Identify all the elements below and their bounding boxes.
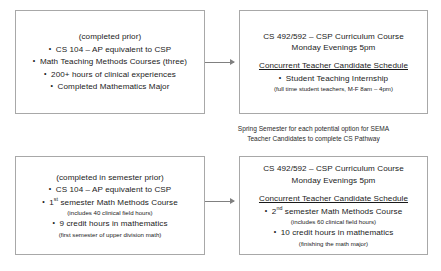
option-1-prerequisite-lines: (completed prior) CS 104 – AP equivalent…: [16, 31, 204, 92]
option-2-course-title: CS 492/592 – CSP Curriculum Course: [263, 163, 404, 174]
pathway-flow-diagram: (completed prior) CS 104 – AP equivalent…: [0, 0, 441, 271]
option-2-schedule-item-1-note: (includes 60 clinical field hours): [291, 217, 376, 226]
option-1-schedule-heading: Concurrent Teacher Candidate Schedule: [259, 60, 408, 71]
option-2-prerequisite-heading: (completed in semester prior): [56, 172, 164, 183]
option-1-prerequisite-item-4: Completed Mathematics Major: [51, 80, 170, 92]
option-2-schedule-heading: Concurrent Teacher Candidate Schedule: [259, 193, 408, 204]
option-2-schedule-item-2-note: (finishing the math major): [299, 239, 368, 248]
option-2-prerequisite-item-3: 9 credit hours in mathematics: [52, 217, 167, 229]
option-2-schedule-item-2: 10 credit hours in mathematics: [274, 226, 394, 238]
option-1-schedule-note: (full time student teachers, M-F 8am – 4…: [274, 84, 393, 93]
option-1-flow-arrow-icon: [205, 62, 234, 63]
option-2-flow-arrow-icon: [205, 201, 234, 202]
option-1-prerequisite-item-1: CS 104 – AP equivalent to CSP: [49, 43, 172, 55]
option-2-prerequisite-box: (completed in semester prior) CS 104 – A…: [15, 156, 205, 255]
option-2-semester-lines: CS 492/592 – CSP Curriculum Course Monda…: [240, 163, 427, 247]
option-2-semester-box: CS 492/592 – CSP Curriculum Course Monda…: [239, 156, 428, 255]
diagram-caption: Spring Semester for each potential optio…: [186, 124, 441, 143]
option-2-prerequisite-item-2-note: (includes 40 clinical field hours): [67, 208, 152, 217]
option-2-prerequisite-item-2: 1st semester Math Methods Course: [42, 196, 178, 208]
option-2-prerequisite-item-1: CS 104 – AP equivalent to CSP: [49, 183, 172, 195]
option-1-schedule-item: Student Teaching Internship: [279, 72, 388, 84]
option-2-prerequisite-lines: (completed in semester prior) CS 104 – A…: [16, 172, 204, 239]
diagram-caption-line-2: Teacher Candidates to complete CS Pathwa…: [186, 134, 441, 144]
option-1-course-meeting-time: Monday Evenings 5pm: [292, 42, 376, 53]
option-1-semester-lines: CS 492/592 – CSP Curriculum Course Monda…: [240, 31, 427, 94]
diagram-caption-line-1: Spring Semester for each potential optio…: [186, 124, 441, 134]
option-2-course-meeting-time: Monday Evenings 5pm: [292, 175, 376, 186]
option-1-prerequisite-box: (completed prior) CS 104 – AP equivalent…: [15, 10, 205, 114]
option-1-course-title: CS 492/592 – CSP Curriculum Course: [263, 31, 404, 42]
option-2-prerequisite-item-3-note: (first semester of upper division math): [59, 230, 162, 239]
option-2-prerequisite-item-2-text: semester Math Methods Course: [58, 198, 178, 207]
option-2-schedule-item-1-text: semester Math Methods Course: [282, 207, 402, 216]
option-1-prerequisite-heading: (completed prior): [79, 31, 142, 42]
option-1-prerequisite-item-3: 200+ hours of clinical experiences: [44, 68, 176, 80]
option-1-prerequisite-item-2: Math Teaching Methods Courses (three): [33, 55, 187, 67]
option-2-schedule-item-1: 2nd semester Math Methods Course: [265, 205, 402, 217]
option-1-semester-box: CS 492/592 – CSP Curriculum Course Monda…: [239, 10, 428, 114]
